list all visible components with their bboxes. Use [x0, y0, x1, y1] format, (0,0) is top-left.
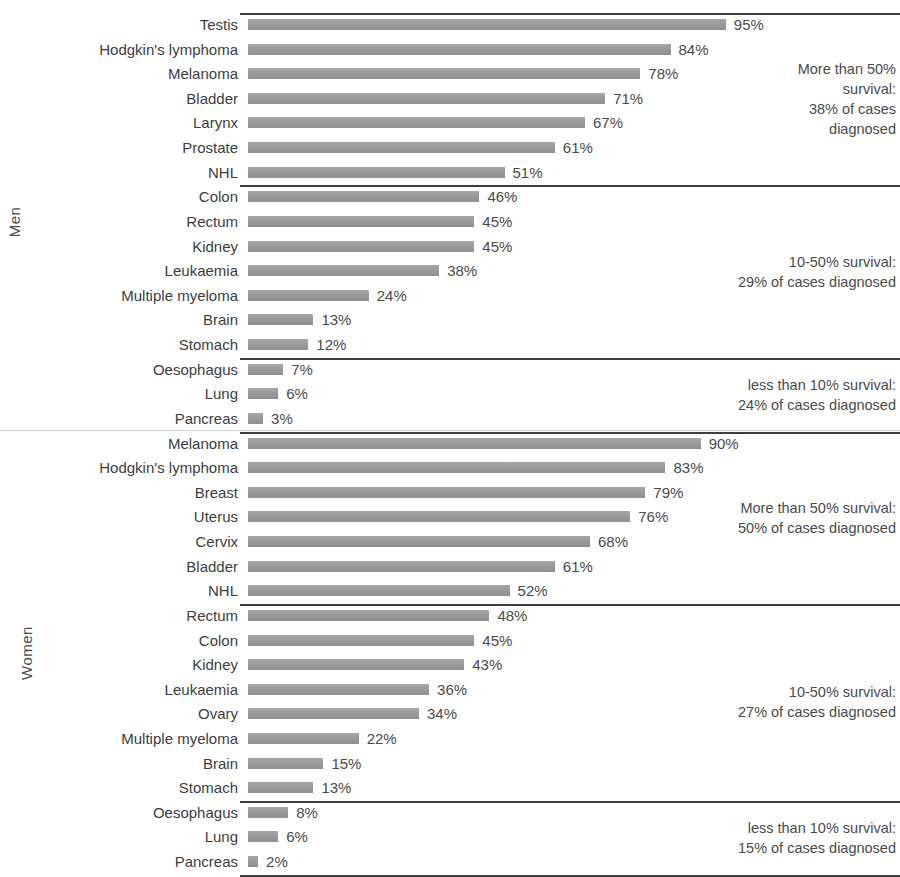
category-label: NHL	[30, 579, 238, 604]
category-label: Oesophagus	[30, 801, 238, 826]
bar	[248, 561, 555, 572]
bar	[248, 241, 474, 252]
chart-row: Rectum48%	[0, 604, 900, 629]
bar	[248, 511, 630, 522]
bar-value-label: 2%	[266, 850, 288, 875]
bar-value-label: 8%	[296, 801, 318, 826]
bar-value-label: 68%	[598, 530, 628, 555]
category-label: Breast	[30, 481, 238, 506]
bar-value-label: 71%	[613, 87, 643, 112]
band-separator-rule	[240, 432, 900, 434]
bar	[248, 93, 605, 104]
bar	[248, 438, 701, 449]
category-label: Bladder	[30, 87, 238, 112]
chart-row: Melanoma90%	[0, 432, 900, 457]
chart-row: NHL52%	[0, 579, 900, 604]
category-label: Cervix	[30, 530, 238, 555]
category-label: NHL	[30, 161, 238, 186]
bar-value-label: 83%	[673, 456, 703, 481]
category-label: Lung	[30, 382, 238, 407]
bar	[248, 831, 278, 842]
bar-value-label: 95%	[734, 13, 764, 38]
bar-value-label: 48%	[497, 604, 527, 629]
bar-value-label: 3%	[271, 407, 293, 432]
bar-value-label: 61%	[563, 555, 593, 580]
bar	[248, 44, 671, 55]
bar-value-label: 52%	[518, 579, 548, 604]
bar	[248, 659, 464, 670]
bar	[248, 364, 283, 375]
chart-row: Testis95%	[0, 13, 900, 38]
category-label: Stomach	[30, 333, 238, 358]
bar-value-label: 13%	[321, 776, 351, 801]
bar	[248, 413, 263, 424]
group-divider	[0, 430, 900, 431]
category-label: Melanoma	[30, 432, 238, 457]
category-label: Testis	[30, 13, 238, 38]
bar-value-label: 84%	[679, 38, 709, 63]
bar	[248, 142, 555, 153]
chart-row: Melanoma78%	[0, 62, 900, 87]
band-separator-rule	[240, 604, 900, 606]
category-label: Stomach	[30, 776, 238, 801]
bar-value-label: 45%	[482, 235, 512, 260]
bar-value-label: 6%	[286, 825, 308, 850]
bar-value-label: 13%	[321, 308, 351, 333]
category-label: Brain	[30, 308, 238, 333]
band-annotation: More than 50% survival: 50% of cases dia…	[738, 498, 896, 538]
chart-row: Hodgkin's lymphoma84%	[0, 38, 900, 63]
band-separator-rule	[240, 801, 900, 803]
chart-row: Stomach12%	[0, 333, 900, 358]
chart-row: Stomach13%	[0, 776, 900, 801]
bar	[248, 856, 258, 867]
bar-value-label: 12%	[316, 333, 346, 358]
bar-value-label: 43%	[472, 653, 502, 678]
bar	[248, 610, 489, 621]
bar-value-label: 15%	[331, 752, 361, 777]
category-label: Kidney	[30, 653, 238, 678]
band-separator-rule	[240, 358, 900, 360]
chart-row: Bladder61%	[0, 555, 900, 580]
category-label: Colon	[30, 629, 238, 654]
chart-row: Prostate61%	[0, 136, 900, 161]
category-label: Larynx	[30, 111, 238, 136]
band-separator-rule	[240, 13, 900, 15]
bar-value-label: 38%	[447, 259, 477, 284]
chart-row: Colon46%	[0, 185, 900, 210]
category-label: Multiple myeloma	[30, 727, 238, 752]
bar-value-label: 46%	[487, 185, 517, 210]
bar-value-label: 79%	[653, 481, 683, 506]
bar	[248, 635, 474, 646]
bar-value-label: 76%	[638, 505, 668, 530]
bar	[248, 68, 640, 79]
bar-value-label: 51%	[513, 161, 543, 186]
category-label: Uterus	[30, 505, 238, 530]
category-label: Rectum	[30, 604, 238, 629]
chart-row: Hodgkin's lymphoma83%	[0, 456, 900, 481]
category-label: Pancreas	[30, 407, 238, 432]
bar	[248, 708, 419, 719]
bar	[248, 684, 429, 695]
category-label: Rectum	[30, 210, 238, 235]
category-label: Kidney	[30, 235, 238, 260]
bar	[248, 462, 665, 473]
bar	[248, 388, 278, 399]
bar-value-label: 34%	[427, 702, 457, 727]
bar-value-label: 6%	[286, 382, 308, 407]
category-label: Ovary	[30, 702, 238, 727]
chart-row: Multiple myeloma22%	[0, 727, 900, 752]
category-label: Multiple myeloma	[30, 284, 238, 309]
bar	[248, 339, 308, 350]
bar-value-label: 67%	[593, 111, 623, 136]
bar	[248, 758, 323, 769]
bar	[248, 733, 359, 744]
bar	[248, 782, 313, 793]
band-annotation: 10-50% survival: 29% of cases diagnosed	[738, 252, 896, 292]
band-separator-rule	[240, 875, 900, 877]
category-label: Melanoma	[30, 62, 238, 87]
bar-value-label: 78%	[648, 62, 678, 87]
band-separator-rule	[240, 185, 900, 187]
bar	[248, 585, 510, 596]
band-annotation: More than 50% survival: 38% of cases dia…	[798, 59, 896, 139]
